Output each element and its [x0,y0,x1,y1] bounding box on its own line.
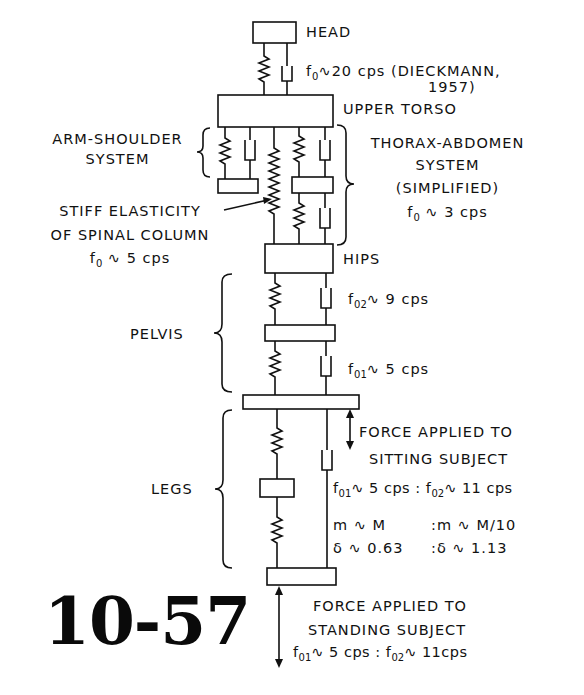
freq-var: f [333,480,339,496]
head-citation-year: 1957) [428,80,476,95]
legs-brace [215,410,232,568]
freq-text: ∿ 11cps [404,644,467,660]
upper-torso-label: UPPER TORSO [343,102,457,117]
standing-frequencies: f01∿ 5 cps : f02∿ 11cps [293,645,468,660]
thorax-line2: SYSTEM [355,158,540,173]
pelvis-upper-frequency: f02∿ 9 cps [348,292,429,307]
freq-text: ∿ 11 cps [444,480,513,496]
sitting-force-line1: FORCE APPLIED TO [359,425,513,440]
figure-number: 10-57 [44,588,250,654]
hips-label: HIPS [343,252,380,267]
spinal-pointer-arrow [224,197,272,210]
pelvis-lower-spring [270,341,280,395]
legs-upper-spring [272,409,282,479]
seat-plate [243,395,359,409]
foot-plate [267,568,336,585]
standing-force-line1: FORCE APPLIED TO [313,599,467,614]
standing-force-line2: STANDING SUBJECT [308,623,466,638]
sitting-force-line2: SITTING SUBJECT [369,452,508,467]
pelvis-brace [214,274,232,392]
arm-shoulder-brace [197,128,210,177]
freq-var: f [293,644,299,660]
spinal-label: STIFF ELASTICITY OF SPINAL COLUMN f0 ∿ 5… [30,204,230,266]
freq-sub: 02 [431,488,444,499]
pelvis-lower-damper [321,341,331,395]
head-spring [259,43,269,95]
thorax-abdomen-label: THORAX-ABDOMEN SYSTEM (SIMPLIFIED) f0 ∿ … [355,136,540,219]
arm-damper [245,127,255,179]
thorax-upper-spring [294,127,304,177]
head-frequency: f0∿20 cps (DIECKMANN, [306,64,501,79]
head-mass [253,22,296,43]
thorax-lower-spring [294,193,304,244]
sitting-force-arrow [346,409,354,450]
separator: : [375,644,380,660]
freq-sub: 02 [391,652,404,663]
thorax-mass [292,177,333,193]
freq-text: ∿ 5 cps [367,361,429,377]
standing-force-arrow [275,586,283,668]
sitting-damping-right: :δ ∿ 1.13 [431,541,507,556]
arm-shoulder-label: ARM-SHOULDER SYSTEM [40,132,195,166]
thorax-upper-damper [320,127,330,177]
thorax-brace [337,125,354,245]
thorax-frequency: f0 ∿ 3 cps [355,205,540,220]
freq-sub: 01 [354,369,367,380]
freq-text: ∿ 5 cps [102,250,170,266]
arm-spring [220,127,230,179]
pelvis-mass [265,325,335,341]
thorax-line1: THORAX-ABDOMEN [355,136,540,151]
pelvis-lower-frequency: f01∿ 5 cps [348,362,429,377]
freq-text: ∿ 9 cps [367,291,429,307]
legs-damper [322,409,332,568]
freq-sub: 01 [299,652,312,663]
spinal-line1: STIFF ELASTICITY [30,204,230,219]
upper-torso-mass [218,95,333,127]
separator: : [415,480,420,496]
freq-text: ∿20 cps (DIECKMANN, [318,63,500,79]
hips-mass [265,244,333,273]
thorax-lower-damper [320,193,330,244]
sitting-mass-right: :m ∿ M/10 [431,518,516,533]
freq-text: ∿ 5 cps [351,480,410,496]
pelvis-upper-damper [321,273,331,325]
arm-shoulder-line1: ARM-SHOULDER [40,132,195,147]
sitting-frequencies: f01∿ 5 cps : f02∿ 11 cps [333,481,513,496]
legs-label: LEGS [151,482,193,497]
freq-text: ∿ 3 cps [420,204,488,220]
freq-sub: 01 [339,488,352,499]
arm-shoulder-line2: SYSTEM [40,152,195,167]
freq-sub: 0 [413,212,419,223]
legs-mass [260,479,294,497]
freq-sub: 0 [96,258,102,269]
freq-sub: 0 [312,71,318,82]
legs-lower-spring [272,497,282,568]
sitting-mass-left: m ∿ M [333,518,386,533]
freq-var: f [90,250,96,266]
pelvis-upper-spring [270,273,280,325]
arm-mass [218,179,258,193]
thorax-line3: (SIMPLIFIED) [355,181,540,196]
freq-text: ∿ 5 cps [311,644,370,660]
pelvis-label: PELVIS [130,327,184,342]
spinal-frequency: f0 ∿ 5 cps [30,251,230,266]
spinal-line2: OF SPINAL COLUMN [30,228,230,243]
freq-sub: 02 [354,299,367,310]
sitting-damping-left: δ ∿ 0.63 [333,541,404,556]
spinal-spring [269,127,279,244]
head-label: HEAD [306,25,351,40]
head-damper [282,43,292,95]
